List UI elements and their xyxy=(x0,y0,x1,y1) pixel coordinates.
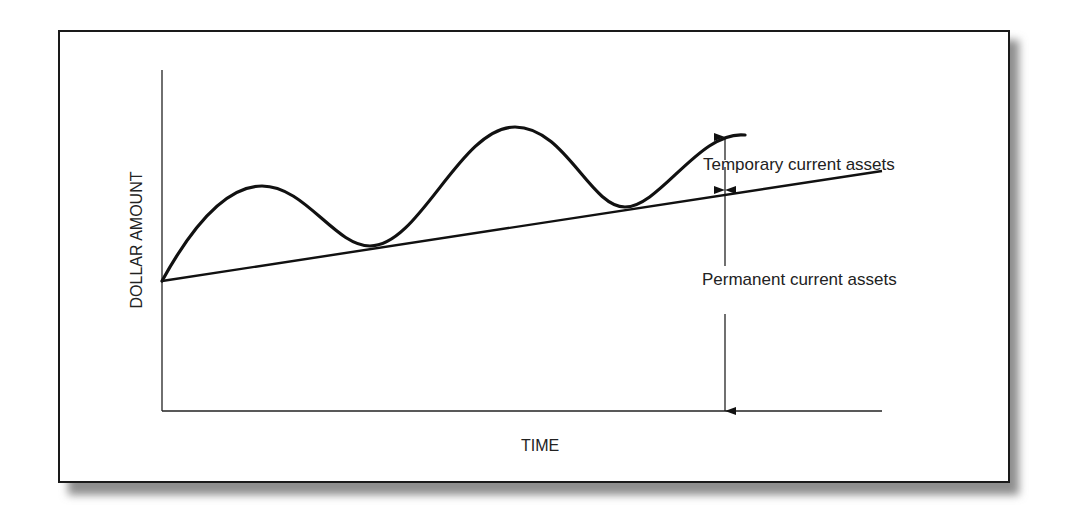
temporary-label: Temporary current assets xyxy=(703,155,895,174)
frame-border xyxy=(59,31,1009,482)
working-capital-diagram: Temporary current assets Permanent curre… xyxy=(0,0,1069,521)
x-axis-label: TIME xyxy=(521,437,559,454)
permanent-label: Permanent current assets xyxy=(702,270,897,289)
y-axis-label: DOLLAR AMOUNT xyxy=(128,171,145,308)
